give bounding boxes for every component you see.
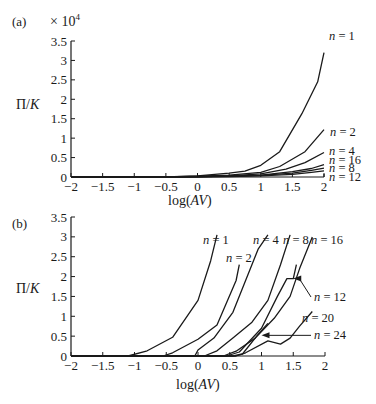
series-label: n = 2 [330,125,356,139]
series-label: n = 12 [329,170,361,184]
x-tick-label: −2 [64,179,78,194]
y-tick-label: 1.5 [51,289,67,304]
axes-a: 00.511.522.533.5−2−1.5−1−0.500.511.52 [51,34,328,195]
series-label: n = 2 [226,251,252,265]
x-tick-label: −1.5 [91,358,115,373]
series-labels-b: n = 1n = 2n = 4n = 8n = 16n = 12n = 20n … [203,233,347,342]
series-line-n16 [71,237,312,356]
y-multiplier: × 104 [50,12,80,29]
y-tick-label: 3 [61,229,68,244]
x-tick-label: 0 [195,358,202,373]
series-line-n2 [71,130,324,177]
x-tick-label: −1 [128,358,142,373]
x-tick-label: 0 [194,179,201,194]
curves-b [71,235,312,356]
panel-b-tag: (b) [12,216,27,231]
series-label: n = 20 [302,311,334,325]
series-label: n = 16 [311,233,343,247]
y-tick-label: 2.5 [51,249,67,264]
series-label: n = 1 [329,29,355,43]
curves-a [71,53,324,177]
panel-a: (a) × 104 Π/K 00.511.522.533.5−2−1.5−1−0… [12,12,361,209]
x-tick-label: 0.5 [222,358,238,373]
x-tick-label: −2 [64,358,78,373]
series-label: n = 4 [253,233,280,247]
x-tick-label: 2 [322,358,329,373]
x-tick-label: −1 [127,179,141,194]
panel-b: (b) Π/K 00.511.522.533.5−2−1.5−1−0.500.5… [12,210,347,394]
y-tick-label: 1.5 [51,111,67,126]
x-tick-label: 2 [321,179,328,194]
x-tick-label: −0.5 [154,179,178,194]
series-labels-a: n = 1n = 2n = 4n = 16n = 8n = 12 [329,29,361,184]
series-line-n1 [71,53,324,177]
series-label: n = 1 [203,233,229,247]
series-line-n12 [71,265,296,356]
x-tick-label: 0.5 [221,179,237,194]
y-axis-title-a: Π/K [16,97,40,112]
series-line-n2 [71,265,239,356]
y-tick-label: 3.5 [51,210,67,225]
y-tick-label: 2 [61,92,68,107]
series-line-n1 [71,235,217,356]
figure-canvas: (a) × 104 Π/K 00.511.522.533.5−2−1.5−1−0… [0,0,376,404]
y-tick-label: 1 [61,131,68,146]
series-label: n = 8 [283,233,309,247]
y-tick-label: 0.5 [51,329,67,344]
arrowhead-icon [262,332,270,338]
x-tick-label: 1.5 [284,179,300,194]
series-label: n = 12 [314,290,346,304]
x-tick-label: −0.5 [154,358,178,373]
x-axis-title-a: log(AV) [168,193,212,209]
y-tick-label: 0.5 [51,150,67,165]
panel-a-tag: (a) [12,14,26,29]
series-label: n = 24 [314,328,347,342]
series-line-n20 [71,312,312,357]
x-tick-label: 1 [258,358,265,373]
x-tick-label: 1 [258,179,265,194]
y-tick-label: 2 [61,269,68,284]
y-tick-label: 3.5 [51,34,67,49]
x-axis-title-b: log(AV) [176,377,220,393]
y-tick-label: 1 [61,309,68,324]
y-tick-label: 2.5 [51,72,67,87]
x-tick-label: 1.5 [285,358,301,373]
x-tick-label: −1.5 [91,179,115,194]
y-tick-label: 3 [61,53,68,68]
y-axis-title-b: Π/K [16,281,40,296]
